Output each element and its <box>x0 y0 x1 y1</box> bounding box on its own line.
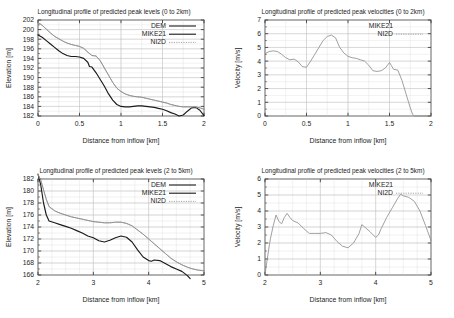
y-tick-label: 1 <box>257 255 261 262</box>
x-tick-labels: 00.511.52 <box>36 120 206 127</box>
x-tick-label: 3 <box>318 279 322 286</box>
legend-label-mike21: MIKE21 <box>369 181 393 188</box>
legend-label-mike21: MIKE21 <box>142 30 166 37</box>
y-tick-label: 5 <box>257 44 261 51</box>
chart-panel-peak-levels-0-2km: Longitudinal profile of predicted peak l… <box>0 0 227 159</box>
y-tick-label: 188 <box>23 84 35 91</box>
chart-panel-peak-velocities-0-2km: Longitudinal profile of predicted peak v… <box>227 0 454 159</box>
y-tick-labels: 182184186188190192194196198200202 <box>23 16 35 119</box>
legend-label-mike21: MIKE21 <box>369 22 393 29</box>
y-tick-label: 5 <box>257 191 261 198</box>
x-tick-labels: 2345 <box>263 279 433 286</box>
y-tick-label: 170 <box>23 247 35 254</box>
y-tick-label: 4 <box>257 58 261 65</box>
plot-area: 0123456 2345 <box>257 175 433 286</box>
chart-panel-peak-levels-2-5km: Longitudinal profile of predicted peak l… <box>0 159 227 318</box>
x-tick-label: 2 <box>429 120 433 127</box>
plot-area: 182184186188190192194196198200202 00.511… <box>23 16 206 127</box>
y-tick-label: 2 <box>257 239 261 246</box>
y-tick-label: 168 <box>23 259 35 266</box>
x-axis-label: Distance from inflow [km] <box>310 296 387 304</box>
y-tick-label: 190 <box>23 74 35 81</box>
legend-label-dem: DEM <box>151 22 166 29</box>
x-tick-label: 2 <box>36 279 40 286</box>
x-tick-label: 1 <box>119 120 123 127</box>
x-tick-labels: 2345 <box>36 279 206 286</box>
y-tick-label: 0 <box>257 271 261 278</box>
y-tick-label: 186 <box>23 93 35 100</box>
x-tick-labels: 00.511.52 <box>263 120 433 127</box>
chart-svg-peak-levels-2-5km: Longitudinal profile of predicted peak l… <box>0 159 227 318</box>
y-axis-label: Velocity [m/s] <box>234 48 242 89</box>
y-tick-label: 2 <box>257 85 261 92</box>
x-tick-label: 2 <box>202 120 206 127</box>
y-tick-label: 182 <box>23 112 35 119</box>
y-tick-label: 0 <box>257 112 261 119</box>
plot-area: 166168170172174176178180182 2345 <box>23 174 206 286</box>
x-tick-label: 5 <box>429 279 433 286</box>
plot-area: 01234567 00.511.52 <box>257 16 433 127</box>
y-tick-label: 3 <box>257 71 261 78</box>
legend-label-dem: DEM <box>151 181 166 188</box>
x-tick-label: 0 <box>36 120 40 127</box>
x-tick-label: 1 <box>346 120 350 127</box>
x-tick-label: 3 <box>91 279 95 286</box>
y-tick-label: 184 <box>23 103 35 110</box>
chart-title: Longitudinal profile of predicted peak l… <box>39 167 192 175</box>
y-tick-label: 7 <box>257 16 261 23</box>
y-tick-label: 200 <box>23 26 35 33</box>
x-tick-label: 0.5 <box>75 120 85 127</box>
y-tick-label: 172 <box>23 235 35 242</box>
y-tick-labels: 0123456 <box>257 175 261 278</box>
chart-title: Longitudinal profile of predicted peak l… <box>37 8 190 16</box>
y-tick-label: 194 <box>23 55 35 62</box>
x-tick-label: 2 <box>263 279 267 286</box>
x-tick-label: 1.5 <box>158 120 168 127</box>
x-tick-label: 4 <box>374 279 378 286</box>
y-axis-label: Velocity [m/s] <box>234 207 242 248</box>
y-tick-label: 198 <box>23 36 35 43</box>
y-tick-label: 3 <box>257 223 261 230</box>
y-tick-label: 180 <box>23 187 35 194</box>
chart-panel-peak-velocities-2-5km: Longitudinal profile of predicted peak v… <box>227 159 454 318</box>
legend-label-ni2d: NI2D <box>151 38 167 45</box>
y-tick-label: 6 <box>257 30 261 37</box>
y-tick-label: 178 <box>23 199 35 206</box>
y-tick-label: 4 <box>257 207 261 214</box>
x-tick-label: 1.5 <box>385 120 395 127</box>
y-tick-label: 202 <box>23 16 35 23</box>
chart-svg-peak-velocities-2-5km: Longitudinal profile of predicted peak v… <box>227 159 454 318</box>
chart-title: Longitudinal profile of predicted peak v… <box>261 8 424 16</box>
y-axis-label: Elevation [m] <box>5 48 13 88</box>
y-tick-labels: 166168170172174176178180182 <box>23 175 35 278</box>
y-tick-label: 196 <box>23 45 35 52</box>
legend-label-ni2d: NI2D <box>378 189 394 196</box>
chart-title: Longitudinal profile of predicted peak v… <box>261 167 424 175</box>
y-tick-label: 182 <box>23 175 35 182</box>
legend-label-ni2d: NI2D <box>378 30 394 37</box>
x-tick-label: 0.5 <box>302 120 312 127</box>
y-tick-label: 174 <box>23 223 35 230</box>
y-axis-label: Elevation [m] <box>5 207 13 247</box>
y-tick-label: 1 <box>257 99 261 106</box>
x-tick-label: 0 <box>263 120 267 127</box>
x-axis-label: Distance from inflow [km] <box>310 137 387 145</box>
x-tick-label: 5 <box>202 279 206 286</box>
figure-grid: Longitudinal profile of predicted peak l… <box>0 0 454 318</box>
x-axis-label: Distance from inflow [km] <box>83 137 160 145</box>
y-tick-label: 176 <box>23 211 35 218</box>
y-tick-labels: 01234567 <box>257 16 261 119</box>
x-tick-label: 4 <box>147 279 151 286</box>
legend-label-mike21: MIKE21 <box>142 189 166 196</box>
y-tick-label: 166 <box>23 271 35 278</box>
chart-svg-peak-levels-0-2km: Longitudinal profile of predicted peak l… <box>0 0 227 159</box>
legend-label-ni2d: NI2D <box>151 197 167 204</box>
chart-svg-peak-velocities-0-2km: Longitudinal profile of predicted peak v… <box>227 0 454 159</box>
x-axis-label: Distance from inflow [km] <box>83 296 160 304</box>
y-tick-label: 192 <box>23 64 35 71</box>
y-tick-label: 6 <box>257 175 261 182</box>
